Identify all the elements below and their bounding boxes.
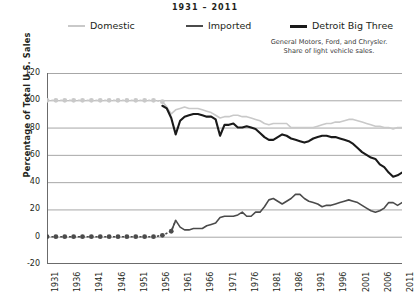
note-line-1: General Motors, Ford, and Chrysler.	[250, 38, 408, 47]
series-imported-marker	[47, 234, 49, 239]
y-tick-label--20: -20	[16, 260, 40, 268]
series-imported-marker	[160, 233, 165, 238]
series-domestic-marker	[98, 98, 103, 103]
series-imported-marker	[71, 234, 76, 239]
x-tick-label-1991: 1991	[317, 272, 326, 292]
series-imported-marker	[124, 234, 129, 239]
x-tick-label-1941: 1941	[95, 272, 104, 292]
chart-legend: Domestic Imported Detroit Big Three	[68, 21, 398, 35]
series-domestic-marker	[53, 98, 58, 103]
x-tick-label-1996: 1996	[339, 272, 348, 292]
x-tick-label-1971: 1971	[229, 272, 238, 292]
x-tick-label-1976: 1976	[251, 272, 260, 292]
y-tick-label-80: 80	[16, 124, 40, 132]
chart-title: 1931 – 2011	[0, 3, 410, 12]
series-imported-marker	[62, 234, 67, 239]
series-domestic-marker	[47, 98, 49, 103]
y-tick-label-0: 0	[16, 233, 40, 241]
series-domestic-marker	[89, 98, 94, 103]
series-imported-marker	[80, 234, 85, 239]
x-tick-label-1986: 1986	[295, 272, 304, 292]
y-tick-label-20: 20	[16, 205, 40, 213]
y-tick-label-60: 60	[16, 151, 40, 159]
series-domestic-marker	[151, 98, 156, 103]
series-domestic-marker	[133, 98, 138, 103]
series-domestic-marker	[124, 98, 129, 103]
y-tick-label-120: 120	[16, 69, 40, 77]
x-tick-label-2001: 2001	[362, 272, 371, 292]
series-imported-marker	[98, 234, 103, 239]
x-tick-label-2011: 2011	[406, 272, 415, 292]
series-detroit-big-three-line	[162, 106, 402, 177]
x-tick-label-1946: 1946	[118, 272, 127, 292]
x-tick-label-1961: 1961	[184, 272, 193, 292]
chart-subtitle-note: General Motors, Ford, and Chrysler. Shar…	[250, 38, 408, 56]
series-imported-line	[171, 194, 402, 231]
x-tick-label-1936: 1936	[73, 272, 82, 292]
x-tick-label-1981: 1981	[273, 272, 282, 292]
legend-swatch-domestic	[68, 25, 85, 27]
series-domestic-marker	[107, 98, 112, 103]
series-imported-marker	[142, 234, 147, 239]
series-imported-marker	[116, 234, 121, 239]
series-imported-marker	[53, 234, 58, 239]
series-imported-dashed	[47, 220, 176, 236]
plot-area	[47, 73, 402, 264]
legend-item-detroit-big-three: Detroit Big Three	[290, 21, 393, 31]
series-domestic-marker	[62, 98, 67, 103]
x-tick-label-2006: 2006	[384, 272, 393, 292]
legend-item-imported: Imported	[186, 21, 251, 31]
x-tick-label-1956: 1956	[162, 272, 171, 292]
series-domestic-marker	[142, 98, 147, 103]
series-domestic-marker	[80, 98, 85, 103]
note-line-2: Share of light vehicle sales.	[250, 47, 408, 56]
y-axis-title: Percentage of Total U.S. Sales	[22, 15, 32, 195]
legend-label-domestic: Domestic	[90, 21, 135, 31]
legend-item-domestic: Domestic	[68, 21, 135, 31]
series-imported-marker	[107, 234, 112, 239]
series-domestic-marker	[71, 98, 76, 103]
series-domestic-marker	[160, 99, 165, 104]
x-tick-label-1931: 1931	[51, 272, 60, 292]
series-domestic-marker	[116, 98, 121, 103]
y-tick-label-100: 100	[16, 96, 40, 104]
x-tick-label-1951: 1951	[140, 272, 149, 292]
legend-swatch-detroit-big-three	[290, 25, 307, 28]
legend-label-detroit-big-three: Detroit Big Three	[312, 21, 393, 31]
series-imported-marker	[169, 229, 174, 234]
series-imported-marker	[89, 234, 94, 239]
y-tick-label-40: 40	[16, 178, 40, 186]
series-imported-marker	[133, 234, 138, 239]
series-imported-marker	[151, 234, 156, 239]
legend-swatch-imported	[186, 25, 203, 27]
x-tick-label-1966: 1966	[206, 272, 215, 292]
legend-label-imported: Imported	[208, 21, 251, 31]
plot-svg	[47, 73, 402, 264]
series-domestic-line	[162, 102, 402, 129]
